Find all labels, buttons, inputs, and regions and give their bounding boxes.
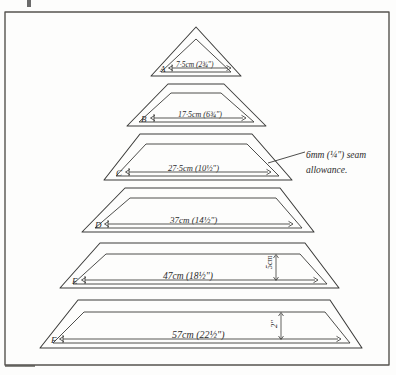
tier-letter-F: F <box>50 335 57 345</box>
seam-allowance-line-1: 6mm (¼") seam <box>306 150 366 161</box>
tier-shape-B[interactable]: B 17·5cm (6¾") <box>127 84 266 126</box>
seam-allowance-line-2: allowance. <box>306 165 347 175</box>
tier-dimension-E: 47cm (18½") <box>163 271 213 282</box>
tier-shape-A[interactable]: A 7·5cm (2¾") <box>151 27 241 76</box>
tier-letter-D: D <box>94 220 102 230</box>
pattern-sheet: A 7·5cm (2¾") B 17·5cm (6¾") <box>0 0 396 375</box>
tier-dimension-F: 57cm (22½") <box>172 329 225 341</box>
tier-dimension-A: 7·5cm (2¾") <box>176 60 214 69</box>
height-label-E: 5cm <box>265 255 274 269</box>
pattern-diagram: A 7·5cm (2¾") B 17·5cm (6¾") <box>0 0 396 375</box>
tier-dimension-C: 27·5cm (10½") <box>168 163 219 173</box>
tier-dimension-D: 37cm (14½") <box>169 215 217 225</box>
tier-dimension-B: 17·5cm (6¾") <box>178 110 222 119</box>
tier-letter-B: B <box>141 114 147 124</box>
height-label-F: 2" <box>269 320 279 328</box>
seam-allowance-annotation: 6mm (¼") seam allowance. <box>268 150 366 175</box>
height-dimension-E: 5cm <box>265 255 279 281</box>
tier-shape-C[interactable]: C 27·5cm (10½") <box>104 134 292 180</box>
tier-shape-E[interactable]: 5cm E 47cm (18½") <box>60 243 339 288</box>
tier-letter-A: A <box>159 64 166 74</box>
tier-letter-E: E <box>71 276 78 286</box>
tier-letter-C: C <box>116 168 123 178</box>
height-dimension-F: 2" <box>269 313 284 340</box>
tier-shape-F[interactable]: 2" F 57cm (22½") <box>40 300 362 348</box>
tier-shape-D[interactable]: D 37cm (14½") <box>82 188 314 232</box>
